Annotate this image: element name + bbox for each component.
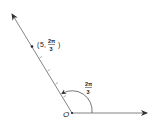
- origin-point: [71, 112, 73, 114]
- svg-text:2π: 2π: [48, 38, 56, 44]
- origin-label: O: [63, 110, 69, 119]
- svg-text:2π: 2π: [85, 81, 93, 87]
- polar-diagram: O ( 5, 2π 3 ) 2π 3: [0, 0, 159, 133]
- svg-text:3: 3: [50, 46, 53, 52]
- svg-text:3: 3: [87, 89, 90, 95]
- tick-marks: [40, 57, 67, 98]
- angle-label: 2π 3: [85, 81, 93, 95]
- terminal-ray: [12, 14, 72, 113]
- polar-point: [31, 45, 34, 48]
- svg-text:5,: 5,: [40, 41, 46, 48]
- svg-text:): ): [58, 41, 60, 49]
- point-label: ( 5, 2π 3 ): [37, 38, 60, 52]
